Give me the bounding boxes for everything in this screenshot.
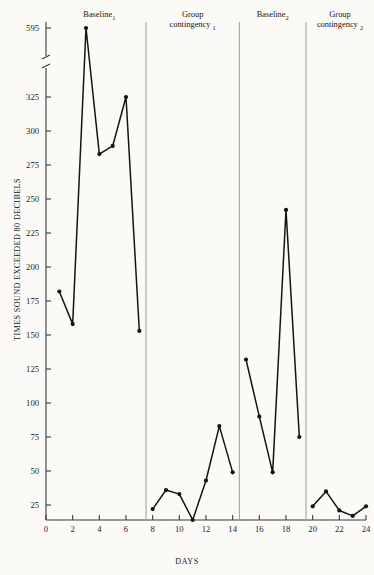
data-point-marker — [297, 435, 301, 439]
x-tick-label: 2 — [71, 524, 75, 534]
phase-label-baseline-1: Baseline1 — [56, 10, 142, 23]
data-point-marker — [84, 26, 88, 30]
data-point-marker — [351, 514, 355, 518]
y-tick-label: 50 — [30, 466, 39, 476]
y-tick-label: 200 — [26, 262, 39, 272]
y-tick-label: 250 — [26, 194, 39, 204]
data-point-marker — [337, 508, 341, 512]
series-line — [153, 426, 233, 520]
y-tick-label: 100 — [26, 398, 39, 408]
x-tick-label: 20 — [308, 524, 317, 534]
y-tick-label: 300 — [26, 126, 39, 136]
data-point-marker — [177, 492, 181, 496]
y-tick-label: 25 — [30, 500, 39, 510]
x-tick-label: 24 — [362, 524, 371, 534]
x-tick-label: 22 — [335, 524, 344, 534]
chart-container: 2550751001251501752002252502753003255950… — [0, 0, 374, 575]
data-point-marker — [151, 507, 155, 511]
phase-label-group-contingency-1: Groupcontingency 1 — [147, 10, 239, 33]
data-point-marker — [324, 489, 328, 493]
x-tick-label: 14 — [228, 524, 237, 534]
data-point-marker — [364, 504, 368, 508]
y-tick-label: 150 — [26, 330, 39, 340]
phase-label-group-contingency-2: Groupcontingency 2 — [294, 10, 374, 33]
x-tick-label: 10 — [175, 524, 184, 534]
data-point-marker — [164, 488, 168, 492]
x-tick-label: 16 — [255, 524, 264, 534]
data-point-marker — [137, 329, 141, 333]
y-tick-label: 595 — [26, 23, 39, 33]
x-tick-label: 6 — [124, 524, 129, 534]
data-point-marker — [284, 208, 288, 212]
series-line — [59, 28, 139, 331]
data-point-marker — [231, 470, 235, 474]
phase-dividers-layer — [146, 22, 306, 520]
x-tick-label: 12 — [202, 524, 211, 534]
data-series-layer — [57, 26, 368, 522]
x-tick-label: 8 — [151, 524, 155, 534]
line-chart-plot: 2550751001251501752002252502753003255950… — [0, 0, 374, 575]
y-tick-label: 175 — [26, 296, 39, 306]
y-tick-label: 125 — [26, 364, 39, 374]
x-tick-label: 4 — [97, 524, 102, 534]
data-point-marker — [217, 424, 221, 428]
data-point-marker — [271, 470, 275, 474]
data-point-marker — [57, 289, 61, 293]
data-point-marker — [191, 518, 195, 522]
data-point-marker — [111, 144, 115, 148]
x-tick-label: 18 — [282, 524, 291, 534]
data-point-marker — [124, 95, 128, 99]
y-tick-label: 75 — [30, 432, 39, 442]
data-point-marker — [97, 152, 101, 156]
x-axis-title: DAYS — [0, 557, 374, 566]
data-point-marker — [311, 504, 315, 508]
y-axis-title: TIMES SOUND EXCEEDED 80 DECIBELS — [13, 150, 22, 370]
series-line — [246, 210, 299, 472]
x-tick-label: 0 — [44, 524, 48, 534]
tick-labels-layer: 2550751001251501752002252502753003255950… — [26, 23, 371, 534]
y-tick-label: 225 — [26, 228, 39, 238]
y-tick-label: 275 — [26, 160, 39, 170]
data-point-marker — [204, 478, 208, 482]
axes-layer — [42, 22, 366, 520]
data-point-marker — [244, 357, 248, 361]
y-tick-label: 325 — [26, 92, 39, 102]
data-point-marker — [71, 322, 75, 326]
data-point-marker — [257, 415, 261, 419]
